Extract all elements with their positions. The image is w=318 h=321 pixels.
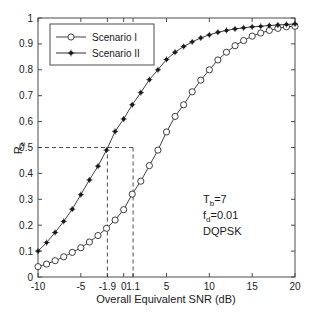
x-tick-label: 10 <box>204 281 216 292</box>
data-point-marker <box>69 249 75 255</box>
x-tick-label: 5 <box>164 281 170 292</box>
y-tick-label: 0.3 <box>19 194 33 205</box>
data-point-marker <box>138 178 144 184</box>
legend-box <box>50 24 154 65</box>
legend-label-scenario-1: Scenario I <box>92 32 137 43</box>
data-point-marker <box>86 177 92 183</box>
y-axis-title-base: R <box>12 146 24 154</box>
data-point-marker <box>198 35 204 41</box>
x-tick-label: -5 <box>76 281 85 292</box>
annotation-fd: fd=0.01 <box>203 209 238 224</box>
data-point-marker <box>223 49 229 55</box>
data-point-marker <box>206 67 212 73</box>
data-point-marker <box>189 39 195 45</box>
data-point-marker <box>138 90 144 96</box>
data-point-marker <box>163 129 169 135</box>
data-point-marker <box>232 26 238 32</box>
data-point-marker <box>121 116 127 122</box>
data-point-marker <box>232 43 238 49</box>
data-point-marker <box>249 24 255 30</box>
y-tick-label: 0.2 <box>19 220 33 231</box>
data-point-marker <box>155 147 161 153</box>
data-point-marker <box>241 25 247 31</box>
annotation-modulation: DQPSK <box>203 225 242 237</box>
x-tick-label: 20 <box>289 281 301 292</box>
data-point-marker <box>146 163 152 169</box>
data-point-marker <box>258 23 264 29</box>
data-point-marker <box>112 128 118 134</box>
data-point-marker <box>69 206 75 212</box>
chart-figure: -10-5-1.901.15101520 00.10.20.30.40.50.6… <box>0 0 318 321</box>
data-point-marker <box>181 102 187 108</box>
chart-svg: -10-5-1.901.15101520 00.10.20.30.40.50.6… <box>0 0 318 321</box>
y-tick-label: 0.9 <box>19 38 33 49</box>
y-tick-label: 0.1 <box>19 246 33 257</box>
y-tick-label: 0.4 <box>19 168 33 179</box>
data-point-marker <box>121 207 127 213</box>
annotation-tb: Tb=7 <box>203 193 227 208</box>
y-tick-label: 0 <box>27 272 33 283</box>
data-point-marker <box>172 113 178 119</box>
x-tick-label: -10 <box>31 281 46 292</box>
data-point-marker <box>223 27 229 33</box>
annotation-fd-rest: =0.01 <box>211 209 239 221</box>
data-point-marker <box>181 43 187 49</box>
data-point-marker <box>129 102 135 108</box>
data-point-marker <box>86 239 92 245</box>
y-tick-label: 1 <box>27 13 33 24</box>
data-point-marker <box>215 57 221 63</box>
data-point-marker <box>78 192 84 198</box>
x-tick-label: 15 <box>247 281 259 292</box>
y-tick-label: 0.7 <box>19 90 33 101</box>
data-point-marker <box>103 225 109 231</box>
data-point-marker <box>52 258 58 264</box>
legend-marker-open-circle-icon <box>68 34 74 40</box>
annotation-tb-rest: =7 <box>214 193 227 205</box>
data-point-marker <box>215 29 221 35</box>
data-point-marker <box>129 191 135 197</box>
annotation-block: Tb=7 fd=0.01 DQPSK <box>203 193 242 237</box>
reference-lines <box>38 148 133 278</box>
data-point-marker <box>35 264 41 270</box>
x-tick-label: -1.9 <box>99 281 117 292</box>
data-point-marker <box>258 30 264 36</box>
data-point-marker <box>112 217 118 223</box>
data-point-marker <box>189 89 195 95</box>
data-point-marker <box>198 77 204 83</box>
x-axis-tick-labels: -10-5-1.901.15101520 <box>31 281 301 292</box>
data-point-marker <box>241 37 247 43</box>
data-point-marker <box>249 33 255 39</box>
data-point-marker <box>43 261 49 267</box>
data-point-marker <box>61 254 67 260</box>
y-axis-title-sub: e <box>18 141 27 146</box>
x-tick-label: 1.1 <box>126 281 140 292</box>
data-point-marker <box>104 147 110 153</box>
x-axis-title: Overall Equivalent SNR (dB) <box>96 293 235 305</box>
y-tick-label: 0.6 <box>19 116 33 127</box>
data-point-marker <box>95 163 101 169</box>
chart-legend[interactable]: Scenario I Scenario II <box>50 24 154 65</box>
data-point-marker <box>95 232 101 238</box>
data-point-marker <box>78 245 84 251</box>
data-point-marker <box>206 32 212 38</box>
legend-label-scenario-2: Scenario II <box>92 48 140 59</box>
y-tick-label: 0.8 <box>19 64 33 75</box>
